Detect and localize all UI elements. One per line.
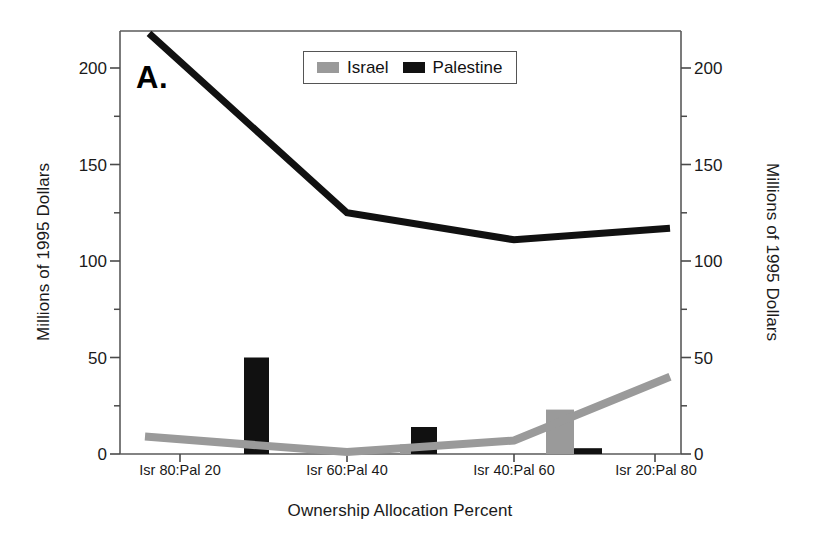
x-tick-label-1: Isr 80:Pal 20 — [139, 462, 220, 478]
legend-entry-palestine: Palestine — [403, 58, 503, 78]
bar-palestine-3 — [574, 448, 602, 454]
x-axis-title: Ownership Allocation Percent — [120, 501, 680, 521]
x-tick-label-3: Isr 40:Pal 60 — [473, 462, 554, 478]
y-left-major-ticks — [110, 68, 120, 454]
y-right-tick-200: 200 — [694, 60, 754, 77]
y-right-tick-50: 50 — [694, 350, 754, 367]
chart-legend: Israel Palestine — [303, 51, 517, 84]
y-axis-right-title: Millions of 1995 Dollars — [762, 122, 782, 382]
y-axis-left-title: Millions of 1995 Dollars — [34, 122, 54, 382]
y-left-tick-200: 200 — [47, 60, 107, 77]
x-ticks — [180, 454, 655, 462]
y-left-tick-0: 0 — [47, 446, 107, 463]
figure-panel-a: A. Israel Palestine 0 50 100 150 200 0 5… — [0, 0, 816, 551]
bar-palestine-1 — [244, 358, 269, 455]
x-tick-label-4: Isr 20:Pal 80 — [615, 462, 696, 478]
y-left-tick-100: 100 — [47, 253, 107, 270]
y-right-major-ticks — [681, 68, 691, 454]
line-israel — [145, 377, 670, 452]
y-right-tick-0: 0 — [694, 446, 754, 463]
y-left-tick-50: 50 — [47, 350, 107, 367]
axis-frame — [120, 31, 681, 454]
y-right-tick-100: 100 — [694, 253, 754, 270]
legend-label-palestine: Palestine — [433, 58, 503, 78]
x-tick-label-2: Isr 60:Pal 40 — [306, 462, 387, 478]
legend-entry-israel: Israel — [317, 58, 389, 78]
y-left-tick-150: 150 — [47, 157, 107, 174]
legend-swatch-palestine — [403, 62, 425, 73]
legend-swatch-israel — [317, 62, 339, 73]
panel-letter: A. — [136, 60, 168, 96]
y-right-tick-150: 150 — [694, 157, 754, 174]
legend-label-israel: Israel — [347, 58, 389, 78]
